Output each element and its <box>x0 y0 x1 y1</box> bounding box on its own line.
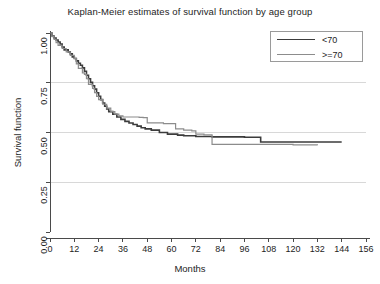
x-tick-label: 156 <box>351 244 380 254</box>
y-axis-label: Survival function <box>12 33 26 232</box>
kaplan-meier-chart: Kaplan-Meier estimates of survival funct… <box>0 0 380 284</box>
legend-label-1: >=70 <box>322 50 343 60</box>
legend-item-1[interactable]: >=70 <box>271 47 364 62</box>
gridlines <box>50 83 366 183</box>
y-tick-label: 0.75 <box>39 82 49 110</box>
legend-line-0 <box>277 39 315 40</box>
y-tick-label: 0.25 <box>39 181 49 209</box>
tick-marks <box>46 33 366 242</box>
legend-label-0: <70 <box>322 35 337 45</box>
legend-line-1 <box>277 54 315 55</box>
legend-item-0[interactable]: <70 <box>271 32 364 47</box>
chart-title: Kaplan-Meier estimates of survival funct… <box>0 6 380 17</box>
y-tick-label: 1.00 <box>39 32 49 60</box>
y-tick-label: 0.50 <box>39 132 49 160</box>
x-axis-label: Months <box>0 263 380 274</box>
legend: <70 >=70 <box>270 31 363 62</box>
